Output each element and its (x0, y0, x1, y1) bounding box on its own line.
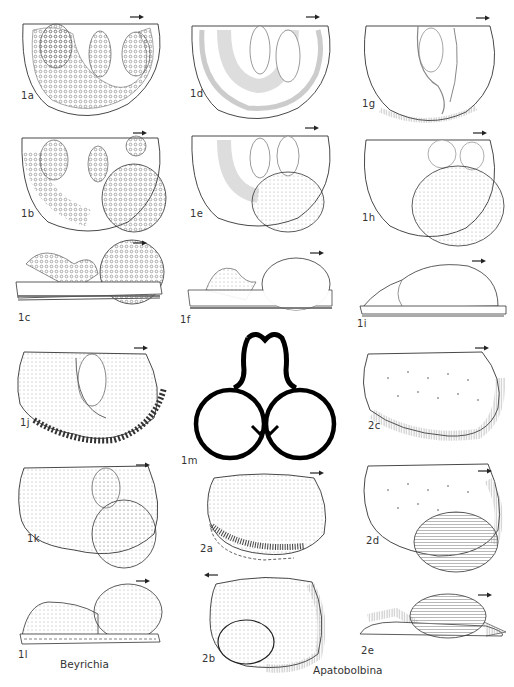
figure-1l (18, 584, 163, 648)
genus-label-beyrichia: Beyrichia (60, 658, 109, 670)
genus-label-apatobolbina: Apatobolbina (313, 664, 383, 676)
orientation-arrow-right-icon (478, 592, 492, 598)
figure-1c (14, 244, 164, 310)
figure-label-1k: 1k (27, 533, 40, 544)
figure-label-1f: 1f (180, 314, 191, 325)
figure-label-1c: 1c (18, 312, 31, 323)
figure-1m (190, 330, 340, 460)
orientation-arrow-left-icon (204, 572, 218, 578)
figure-2d (358, 460, 508, 570)
ostracod-lateral-smooth-lobes-icon (188, 20, 333, 120)
orientation-arrow-right-icon (476, 15, 490, 21)
ostracod-profile-icon (356, 592, 512, 642)
figure-1a (18, 14, 163, 114)
ostracod-profile-icon (358, 258, 508, 320)
ostracod-lateral-ornamented-icon (18, 14, 163, 114)
figure-label-1b: 1b (21, 208, 35, 219)
figure-label-1d: 1d (190, 88, 204, 99)
ostracod-lateral-brood-pouch-icon (358, 138, 503, 238)
figure-1i (358, 258, 508, 320)
orientation-arrow-right-icon (473, 130, 487, 136)
figure-1h (358, 138, 503, 238)
figure-label-1a: 1a (21, 90, 35, 101)
figure-label-2a: 2a (200, 543, 214, 554)
orientation-arrow-right-icon (475, 345, 489, 351)
orientation-arrow-right-icon (310, 470, 324, 476)
ostracod-profile-icon (186, 256, 336, 316)
cross-section-outline-icon (190, 330, 340, 460)
figure-2e (356, 592, 512, 642)
ostracod-lateral-spinose-icon (14, 348, 164, 438)
ostracod-lateral-brood-pouch-icon (14, 464, 164, 564)
ostracod-lateral-striate-pouch-icon (358, 460, 508, 570)
figure-1f (186, 256, 336, 316)
figure-label-1j: 1j (20, 417, 30, 428)
ostracod-profile-icon (14, 244, 164, 310)
orientation-arrow-right-icon (136, 578, 150, 584)
figure-label-1h: 1h (362, 212, 376, 223)
orientation-arrow-right-icon (310, 250, 324, 256)
ostracod-profile-icon (18, 584, 163, 648)
ostracod-lateral-brood-pouch-icon (188, 130, 333, 230)
ostracod-lateral-icon (204, 474, 330, 564)
orientation-arrow-right-icon (130, 14, 144, 20)
figure-2b (206, 576, 326, 670)
orientation-arrow-right-icon (478, 468, 492, 474)
orientation-arrow-right-icon (136, 462, 150, 468)
orientation-arrow-right-icon (133, 240, 147, 246)
figure-label-2c: 2c (368, 420, 381, 431)
figure-label-1e: 1e (190, 208, 204, 219)
ostracod-lateral-brood-pouch-icon (18, 132, 163, 232)
figure-1d (188, 20, 333, 120)
ostracod-lateral-smooth-icon (358, 22, 503, 122)
figure-label-2d: 2d (366, 535, 380, 546)
figure-1e (188, 130, 333, 230)
orientation-arrow-right-icon (134, 345, 148, 351)
orientation-arrow-right-icon (306, 14, 320, 20)
figure-1j (14, 348, 164, 438)
figure-label-1l: 1l (18, 649, 28, 660)
figure-label-2b: 2b (202, 653, 216, 664)
figure-1g (358, 22, 503, 122)
figure-label-1m: 1m (181, 455, 198, 466)
figure-label-1i: 1i (357, 318, 367, 329)
orientation-arrow-right-icon (472, 258, 486, 264)
figure-1b (18, 132, 163, 232)
figure-1k (14, 464, 164, 564)
figure-label-1g: 1g (362, 98, 376, 109)
ostracod-lateral-pouch-icon (206, 576, 326, 670)
orientation-arrow-right-icon (305, 125, 319, 131)
figure-2a (204, 474, 330, 564)
figure-plate: 1a 1d 1g 1b (0, 0, 514, 687)
orientation-arrow-right-icon (133, 130, 147, 136)
figure-label-2e: 2e (361, 645, 375, 656)
